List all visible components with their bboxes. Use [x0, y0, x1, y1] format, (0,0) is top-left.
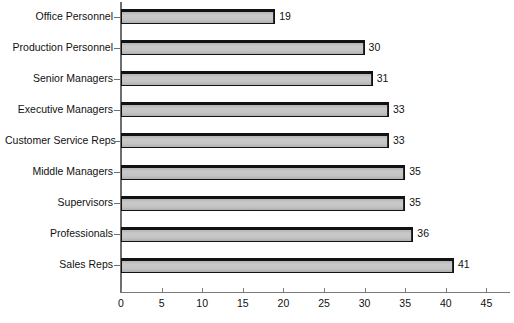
bar-row: Office Personnel19 [0, 9, 514, 40]
bar-value-label: 35 [409, 197, 421, 208]
bar-value-label: 33 [393, 135, 405, 146]
category-label: Middle Managers [5, 166, 113, 177]
x-axis-tick-label: 30 [350, 297, 380, 309]
bar-value-label: 41 [458, 259, 470, 270]
bar-row: Senior Managers31 [0, 71, 514, 102]
x-axis-tick-label: 10 [187, 297, 217, 309]
y-axis-tick [114, 110, 120, 111]
bar-value-label: 35 [409, 166, 421, 177]
bar-value-label: 31 [377, 73, 389, 84]
x-axis-tick [202, 288, 203, 293]
x-axis-tick-label: 15 [228, 297, 258, 309]
x-axis-tick-label: 20 [268, 297, 298, 309]
bar[interactable] [121, 133, 389, 148]
y-axis-tick [114, 234, 120, 235]
bar[interactable] [121, 71, 373, 86]
x-axis-tick [324, 288, 325, 293]
bar-row: Executive Managers33 [0, 102, 514, 133]
bar[interactable] [121, 40, 365, 55]
y-axis-tick [114, 17, 120, 18]
category-label: Professionals [5, 228, 113, 239]
plot-area: Office Personnel19Production Personnel30… [0, 0, 514, 323]
x-axis-tick-label: 0 [106, 297, 136, 309]
bar-value-label: 36 [417, 228, 429, 239]
x-axis-tick-label: 40 [431, 297, 461, 309]
category-label: Customer Service Reps [5, 135, 113, 146]
bar[interactable] [121, 165, 405, 180]
bar-row: Professionals36 [0, 227, 514, 258]
x-axis-tick-label: 45 [471, 297, 501, 309]
category-label: Executive Managers [5, 104, 113, 115]
bar[interactable] [121, 9, 275, 24]
bar-row: Middle Managers35 [0, 165, 514, 196]
x-axis-tick [446, 288, 447, 293]
y-axis-tick [114, 141, 120, 142]
bar[interactable] [121, 196, 405, 211]
y-axis-tick [114, 203, 120, 204]
x-axis-tick-label: 35 [390, 297, 420, 309]
category-label: Production Personnel [5, 42, 113, 53]
category-label: Office Personnel [5, 11, 113, 22]
y-axis-tick [114, 172, 120, 173]
x-axis-tick [486, 288, 487, 293]
x-axis-tick [162, 288, 163, 293]
category-label: Senior Managers [5, 73, 113, 84]
category-label: Sales Reps [5, 259, 113, 270]
bar[interactable] [121, 258, 454, 273]
x-axis-tick [365, 288, 366, 293]
bar-value-label: 33 [393, 104, 405, 115]
y-axis-tick [114, 265, 120, 266]
bar-row: Production Personnel30 [0, 40, 514, 71]
x-axis-tick [243, 288, 244, 293]
bar-chart: Office Personnel19Production Personnel30… [0, 0, 514, 323]
y-axis-tick [114, 48, 120, 49]
category-label: Supervisors [5, 197, 113, 208]
x-axis-tick-label: 25 [309, 297, 339, 309]
bar[interactable] [121, 227, 413, 242]
bar[interactable] [121, 102, 389, 117]
bar-value-label: 19 [279, 11, 291, 22]
x-axis-tick [283, 288, 284, 293]
bar-value-label: 30 [369, 42, 381, 53]
bar-row: Supervisors35 [0, 196, 514, 227]
bar-row: Sales Reps41 [0, 258, 514, 289]
x-axis-tick-label: 5 [147, 297, 177, 309]
x-axis-tick [405, 288, 406, 293]
x-axis-tick [121, 288, 122, 293]
bar-row: Customer Service Reps33 [0, 133, 514, 164]
y-axis-tick [114, 79, 120, 80]
x-axis-line [120, 292, 510, 293]
